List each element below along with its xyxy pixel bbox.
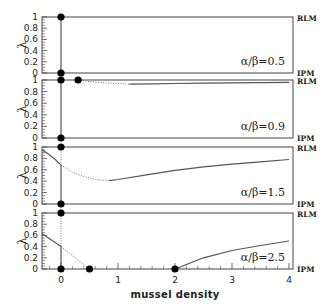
equilibrium-point <box>171 265 178 272</box>
equilibrium-point <box>57 200 64 207</box>
rlm-label: RLM <box>297 210 317 219</box>
y-tick-label: 0.2 <box>24 253 38 263</box>
y-tick-label: 1 <box>32 12 38 22</box>
equilibrium-point <box>57 143 64 150</box>
panel-1: 00.20.40.60.81λRLMIPMα/β=0.5 <box>16 12 317 78</box>
rlm-label: RLM <box>297 14 317 23</box>
equilibrium-point <box>57 76 64 83</box>
solid-stable-curve <box>109 160 289 181</box>
panels-group: 00.20.40.60.81λRLMIPMα/β=0.500.20.40.60.… <box>16 12 317 285</box>
x-tick-label: 3 <box>229 275 235 285</box>
x-tick-label: 1 <box>115 275 121 285</box>
y-tick-label: 1 <box>32 208 38 218</box>
y-tick-label: 0.2 <box>24 57 38 67</box>
ratio-label: α/β=1.5 <box>241 186 285 199</box>
rlm-label: RLM <box>297 77 317 86</box>
panel-3: 00.20.40.60.81λRLMIPMα/β=1.5 <box>16 142 317 209</box>
y-tick-label: 0.8 <box>24 219 39 229</box>
y-tick-label: 0.2 <box>24 121 38 131</box>
ipm-label: IPM <box>297 134 314 143</box>
dotted-unstable-curve <box>78 80 129 84</box>
ratio-label: α/β=0.9 <box>241 120 285 133</box>
y-axis-label: λ <box>16 172 29 179</box>
ipm-label: IPM <box>297 200 314 209</box>
rlm-label: RLM <box>297 144 317 153</box>
panel-4: 00.20.40.60.81λRLMIPMα/β=2.501234 <box>16 208 317 285</box>
y-tick-label: 0.8 <box>24 153 39 163</box>
y-tick-label: 1 <box>32 142 38 152</box>
y-axis-label: λ <box>16 105 29 112</box>
y-tick-label: 0.2 <box>24 188 38 198</box>
ratio-label: α/β=0.5 <box>241 55 285 68</box>
equilibrium-point <box>57 13 64 20</box>
y-tick-label: 0 <box>32 264 38 274</box>
ipm-label: IPM <box>297 265 314 274</box>
equilibrium-point <box>75 76 82 83</box>
solid-stable-curve <box>129 82 289 84</box>
equilibrium-point <box>86 265 93 272</box>
x-tick-label: 2 <box>172 275 178 285</box>
y-axis-label: λ <box>16 237 29 244</box>
solid-stable-curve <box>42 234 61 247</box>
dotted-unstable-curve <box>61 247 90 269</box>
equilibrium-point <box>57 69 64 76</box>
y-tick-label: 1 <box>32 75 38 85</box>
x-axis-label: mussel density <box>130 289 219 300</box>
chart-canvas: 00.20.40.60.81λRLMIPMα/β=0.500.20.40.60.… <box>0 0 321 307</box>
equilibrium-point <box>57 265 64 272</box>
ratio-label: α/β=2.5 <box>241 251 285 264</box>
y-tick-label: 0.8 <box>24 87 39 97</box>
x-tick-label: 0 <box>58 275 64 285</box>
equilibrium-point <box>57 209 64 216</box>
equilibrium-point <box>57 134 64 141</box>
panel-2: 00.20.40.60.81λRLMIPMα/β=0.9 <box>16 75 317 143</box>
y-tick-label: 0.8 <box>24 23 39 33</box>
y-axis-label: λ <box>16 41 29 48</box>
x-tick-label: 4 <box>286 275 292 285</box>
dotted-unstable-curve <box>61 165 109 180</box>
solid-stable-curve <box>42 150 61 165</box>
